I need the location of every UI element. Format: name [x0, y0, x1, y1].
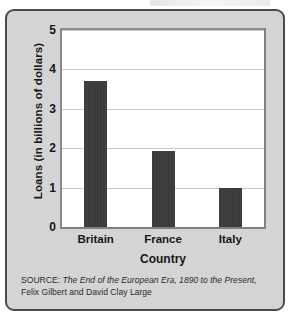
y-tick-label: 3 [49, 103, 56, 115]
y-axis-title: Loans (in billions of dollars) [32, 26, 44, 216]
y-tick-label: 5 [49, 24, 56, 36]
y-tick-label: 0 [49, 221, 56, 233]
gridline [62, 69, 264, 70]
chart-figure-frame: Loans (in billions of dollars) 012345 Co… [5, 9, 285, 311]
source-label: SOURCE: [21, 275, 60, 285]
x-tick-label-britain: Britain [77, 233, 113, 245]
bar-britain [84, 81, 107, 227]
scan-artifact [150, 0, 270, 6]
bar-france [152, 151, 175, 227]
source-title: The End of the European Era, 1890 to the… [63, 275, 257, 285]
x-axis-title: Country [60, 252, 266, 266]
y-tick-label: 4 [49, 63, 56, 75]
source-citation: SOURCE: The End of the European Era, 189… [21, 274, 275, 298]
y-tick-label: 2 [49, 142, 56, 154]
gridline [62, 30, 264, 31]
bar-italy [219, 188, 242, 227]
x-tick-label-france: France [144, 233, 182, 245]
source-citation-authors: Felix Gilbert and David Clay Large [21, 286, 275, 298]
plot-area: 012345 [60, 28, 266, 229]
y-tick-label: 1 [49, 182, 56, 194]
source-citation-line-1: SOURCE: The End of the European Era, 189… [21, 274, 275, 286]
x-tick-label-italy: Italy [219, 233, 242, 245]
